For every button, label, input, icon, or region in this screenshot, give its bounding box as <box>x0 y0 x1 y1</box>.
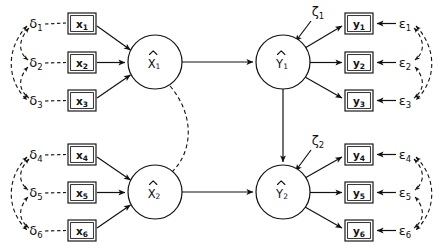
observed-box-y4: y4 <box>345 144 373 165</box>
path-x3-xi1 <box>97 75 131 98</box>
path-eta1-y3 <box>305 77 342 98</box>
delta4-label: δ <box>29 147 37 162</box>
loadings-xi1 <box>97 26 131 98</box>
epsilon3-subscript: 3 <box>406 99 411 109</box>
delta-labels: δ1 δ2 δ3 δ4 δ5 δ6 <box>29 16 42 240</box>
path-eta1-y1 <box>305 26 342 48</box>
epsilon6-label: ε <box>399 223 406 238</box>
latent-eta2-subscript: 2 <box>283 192 288 201</box>
latent-node-eta2: Y2 <box>256 165 310 219</box>
observed-box-y6: y6 <box>345 220 373 241</box>
path-zeta2-eta2 <box>296 150 312 171</box>
observed-y-group-top: y1 y2 y3 <box>345 13 373 111</box>
observed-box-y3: y3 <box>345 90 373 111</box>
epsilon-to-y-paths-bottom <box>377 155 396 231</box>
covariance-delta5-delta6 <box>21 197 29 228</box>
path-eta2-y4 <box>305 157 342 178</box>
delta-to-x-paths-bottom <box>45 155 66 232</box>
covariance-epsilon1-epsilon3 <box>416 26 432 100</box>
path-x6-xi2 <box>97 205 131 228</box>
epsilon1-label: ε <box>399 16 406 31</box>
delta3-subscript: 3 <box>37 99 42 109</box>
path-x4-xi2 <box>97 157 131 180</box>
delta6-subscript: 6 <box>37 229 42 239</box>
observed-box-y5: y5 <box>345 182 373 203</box>
observed-box-x3: x3 <box>68 90 96 111</box>
delta1-label: δ <box>29 16 37 31</box>
path-eta2-y6 <box>305 207 342 228</box>
sem-path-diagram: x1 x2 x3 x4 x5 x6 <box>0 0 448 249</box>
svg-text:ε1: ε1 <box>399 16 411 33</box>
epsilon-correlation-arcs-top <box>414 26 432 100</box>
svg-text:ε2: ε2 <box>399 55 411 72</box>
epsilon4-label: ε <box>399 147 406 162</box>
observed-y5-subscript: 5 <box>360 192 365 201</box>
path-delta5-x5 <box>45 193 66 194</box>
latent-node-xi1: X1 <box>128 35 182 89</box>
svg-text:δ2: δ2 <box>29 55 42 72</box>
epsilon5-label: ε <box>399 185 406 200</box>
observed-box-x2: x2 <box>68 52 96 73</box>
latent-xi2-label: X <box>148 187 156 201</box>
observed-x1-subscript: 1 <box>83 23 88 32</box>
covariance-epsilon2-epsilon3 <box>414 67 422 98</box>
path-delta1-x1 <box>45 23 66 24</box>
epsilon4-subscript: 4 <box>406 153 411 163</box>
svg-text:ζ1: ζ1 <box>312 4 325 21</box>
latent-node-eta1: Y1 <box>256 35 310 89</box>
path-delta6-x6 <box>45 231 66 232</box>
svg-text:ε4: ε4 <box>399 147 411 164</box>
path-zeta1-eta1 <box>296 21 312 42</box>
delta2-label: δ <box>29 55 37 70</box>
covariance-epsilon4-epsilon6 <box>416 157 432 230</box>
delta3-label: δ <box>29 93 37 108</box>
observed-x6-subscript: 6 <box>83 230 88 239</box>
observed-x-group-top: x1 x2 x3 <box>68 13 96 111</box>
delta-correlation-arcs-top <box>11 26 29 100</box>
path-delta4-x4 <box>45 155 66 156</box>
observed-box-x1: x1 <box>68 13 96 34</box>
epsilon-labels: ε1 ε2 ε3 ε4 ε5 ε6 <box>399 16 411 240</box>
epsilon-correlation-arcs-bottom <box>414 157 432 230</box>
zeta2-subscript: 2 <box>319 139 324 149</box>
delta6-label: δ <box>29 223 37 238</box>
observed-x-group-bottom: x4 x5 x6 <box>68 144 96 241</box>
observed-x4-subscript: 4 <box>83 154 88 163</box>
epsilon2-label: ε <box>399 55 406 70</box>
svg-text:δ6: δ6 <box>29 223 42 240</box>
epsilon-to-y-paths-top <box>377 24 396 101</box>
covariance-delta4-delta6 <box>11 157 27 230</box>
svg-text:ε3: ε3 <box>399 93 411 110</box>
latent-xi2-subscript: 2 <box>156 192 161 201</box>
path-x1-xi1 <box>97 26 131 50</box>
observed-x2-subscript: 2 <box>83 62 88 71</box>
path-delta2-x2 <box>45 63 66 64</box>
latent-eta1-subscript: 1 <box>283 62 288 71</box>
latent-node-xi2: X2 <box>128 165 182 219</box>
epsilon3-label: ε <box>399 93 406 108</box>
zeta1-subscript: 1 <box>319 10 324 20</box>
latent-xi1-label: X <box>148 57 156 71</box>
diagram-canvas: x1 x2 x3 x4 x5 x6 <box>0 0 448 249</box>
zeta1-label: ζ <box>312 4 319 19</box>
covariance-delta1-delta3 <box>11 26 27 100</box>
delta2-subscript: 2 <box>37 61 42 71</box>
observed-x5-subscript: 5 <box>83 192 88 201</box>
delta5-subscript: 5 <box>37 191 42 201</box>
observed-y4-subscript: 4 <box>360 154 365 163</box>
delta1-subscript: 1 <box>37 22 42 32</box>
delta-to-x-paths-top <box>45 23 66 101</box>
latent-xi1-subscript: 1 <box>156 62 161 71</box>
delta5-label: δ <box>29 185 37 200</box>
svg-text:δ1: δ1 <box>29 16 42 33</box>
observed-y3-subscript: 3 <box>360 100 365 109</box>
covariance-delta2-delta3 <box>21 67 29 98</box>
observed-y6-subscript: 6 <box>360 230 365 239</box>
covariance-xi1-xi2 <box>170 86 188 172</box>
observed-y1-subscript: 1 <box>360 23 365 32</box>
svg-text:ε6: ε6 <box>399 223 411 240</box>
loadings-xi2 <box>97 157 131 228</box>
svg-text:ε5: ε5 <box>399 185 411 202</box>
observed-box-x6: x6 <box>68 220 96 241</box>
epsilon1-subscript: 1 <box>406 22 411 32</box>
